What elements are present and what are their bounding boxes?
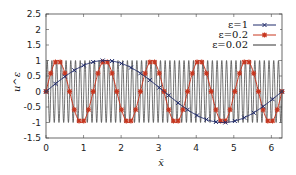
x-tick-label: 2 [118, 143, 124, 153]
chart: -1.5-1-0.500.511.522.5 0123456 u^ε x̄ ε=… [0, 0, 296, 175]
legend-label: ε=0.02 [212, 39, 248, 50]
y-tick-label: -1 [32, 118, 41, 128]
plot-lines [44, 59, 285, 125]
x-tick-label: 1 [81, 143, 87, 153]
x-tick-label: 0 [43, 143, 49, 153]
x-tick-label: 3 [156, 143, 162, 153]
x-tick-label: 5 [231, 143, 237, 153]
y-tick-label: -0.5 [23, 102, 41, 112]
y-tick-label: 2 [35, 25, 41, 35]
legend: ε=1ε=0.2ε=0.02 [196, 17, 280, 50]
y-tick-label: 1 [35, 56, 41, 66]
y-axis-label: u^ε [11, 72, 22, 92]
y-tick-label: 2.5 [27, 9, 41, 19]
x-axis-label: x̄ [158, 157, 164, 168]
x-tick-label: 4 [193, 143, 199, 153]
x-tick-label: 6 [268, 143, 274, 153]
y-tick-label: 0.5 [27, 71, 41, 81]
y-tick-label: -1.5 [23, 133, 41, 143]
y-tick-label: 1.5 [27, 40, 41, 50]
y-tick-label: 0 [35, 87, 41, 97]
